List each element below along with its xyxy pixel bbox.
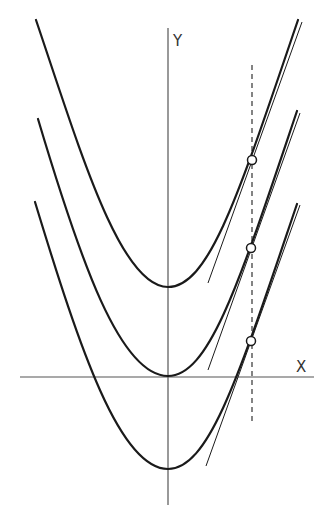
y-axis-label: Y	[172, 32, 183, 50]
x-axis-label: X	[296, 358, 306, 376]
parabola-family-diagram: X Y	[0, 0, 330, 520]
tangent-point-bottom	[247, 337, 256, 346]
tangent-point-top	[248, 156, 257, 165]
parabola-top	[36, 20, 298, 287]
tangent-point-middle	[247, 244, 256, 253]
tangent-line-top	[208, 22, 302, 283]
parabola-bottom	[35, 202, 297, 469]
